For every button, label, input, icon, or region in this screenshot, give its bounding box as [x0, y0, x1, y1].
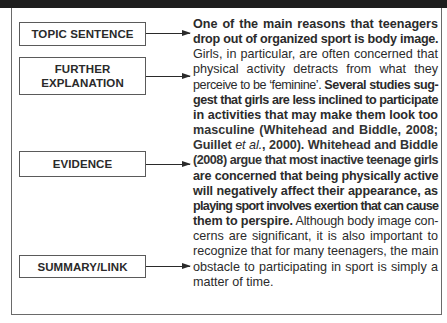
text-run: Girls, in particular, are often concerne… [193, 47, 438, 61]
label-summary-link: SUMMARY/LINK [19, 255, 146, 278]
paragraph-line: gest that girls are less inclined to par… [193, 93, 438, 108]
text-run: et al. [235, 138, 262, 152]
text-run: perceive to be ‘feminine’. [193, 78, 324, 92]
text-run: drop out of organized sport is body imag… [193, 32, 438, 46]
paragraph-line: playing sport involves exertion that can… [193, 199, 438, 214]
paragraph-line: perceive to be ‘feminine’. Several studi… [193, 78, 438, 93]
paragraph-line: them to perspire. Although body image co… [193, 214, 438, 229]
paragraph-line: in activities that may make them look to… [193, 108, 438, 123]
text-run: recognize that for many teenagers, the m… [193, 244, 438, 258]
text-run: Several studies sug- [324, 78, 438, 92]
paragraph-line: obstacle to participating in sport is si… [193, 260, 438, 275]
label-further-explanation: FURTHER EXPLANATION [19, 57, 146, 95]
paragraph-line: drop out of organized sport is body imag… [193, 32, 438, 47]
body-paragraph: One of the main reasons that teenagersdr… [193, 17, 438, 290]
text-run: in activities that may make them look to… [193, 108, 438, 122]
text-run: physical activity detracts from what the… [193, 62, 438, 76]
label-text: EVIDENCE [53, 157, 113, 171]
text-run: playing sport involves exertion that can… [193, 199, 438, 213]
arrow-evidence [146, 164, 190, 165]
label-text: TOPIC SENTENCE [31, 27, 133, 41]
paragraph-line: recognize that for many teenagers, the m… [193, 244, 438, 259]
label-text: SUMMARY/LINK [37, 260, 127, 274]
arrow-summary-link [146, 266, 190, 267]
paragraph-line: physical activity detracts from what the… [193, 62, 438, 77]
top-band [0, 0, 447, 8]
paragraph-line: masculine (Whitehead and Biddle, 2008; [193, 123, 438, 138]
text-run: Although body image con- [293, 214, 439, 228]
arrow-topic-sentence [146, 33, 190, 34]
text-run: , 2000). Whitehead and Biddle [262, 138, 438, 152]
text-run: them to perspire. [193, 214, 293, 228]
paragraph-line: Girls, in particular, are often concerne… [193, 47, 438, 62]
label-text-line1: FURTHER [55, 62, 111, 76]
paragraph-line: One of the main reasons that teenagers [193, 17, 438, 32]
paragraph-line: cerns are significant, it is also import… [193, 229, 438, 244]
text-run: matter of time. [193, 275, 273, 289]
arrow-further-explanation [146, 76, 190, 77]
text-run: obstacle to participating in sport is si… [193, 260, 438, 274]
label-evidence: EVIDENCE [19, 151, 146, 177]
text-run: cerns are significant, it is also import… [193, 229, 438, 243]
paragraph-line: will negatively affect their appearance,… [193, 184, 438, 199]
text-run: masculine (Whitehead and Biddle, 2008; [193, 123, 438, 137]
paragraph-line: matter of time. [193, 275, 438, 290]
text-run: One of the main reasons that teenagers [193, 17, 438, 31]
text-run: (2008) argue that most inactive teenage … [193, 153, 438, 167]
text-run: are concerned that being physically acti… [193, 169, 438, 183]
paragraph-line: are concerned that being physically acti… [193, 169, 438, 184]
label-topic-sentence: TOPIC SENTENCE [19, 22, 146, 46]
label-text-line2: EXPLANATION [41, 76, 124, 90]
text-run: will negatively affect their appearance,… [193, 184, 438, 198]
text-run: gest that girls are less inclined to par… [193, 93, 438, 107]
paragraph-line: (2008) argue that most inactive teenage … [193, 153, 438, 168]
text-run: Guillet [193, 138, 235, 152]
paragraph-line: Guillet et al., 2000). Whitehead and Bid… [193, 138, 438, 153]
